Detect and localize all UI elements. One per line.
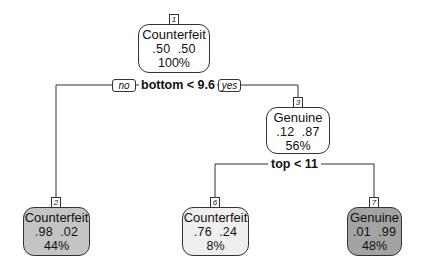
- node-probabilities: .12 .87: [267, 125, 329, 139]
- split-rule-node-3: top < 11: [268, 157, 321, 171]
- split-rule-root: bottom < 9.6: [139, 78, 217, 92]
- node-probabilities: .01 .99: [348, 225, 401, 239]
- tree-node-1: Counterfeit .50 .50 100%: [138, 24, 210, 73]
- tree-node-7: Genuine .01 .99 48%: [347, 207, 402, 256]
- edge-tag-yes: yes: [218, 79, 241, 92]
- node-percentage: 44%: [24, 239, 89, 253]
- node-class-label: Counterfeit: [24, 211, 89, 225]
- node-class-label: Counterfeit: [183, 211, 248, 225]
- tree-node-2: Counterfeit .98 .02 44%: [23, 207, 90, 256]
- node-class-label: Genuine: [348, 211, 401, 225]
- node-percentage: 48%: [348, 239, 401, 253]
- tree-node-3: Genuine .12 .87 56%: [266, 107, 330, 154]
- node-percentage: 100%: [139, 56, 209, 70]
- node-class-label: Genuine: [267, 111, 329, 125]
- node-percentage: 8%: [183, 239, 248, 253]
- node-probabilities: .50 .50: [139, 42, 209, 56]
- node-probabilities: .76 .24: [183, 225, 248, 239]
- node-probabilities: .98 .02: [24, 225, 89, 239]
- edge-tag-no: no: [112, 79, 136, 92]
- node-percentage: 56%: [267, 139, 329, 153]
- decision-tree-diagram: 1 Counterfeit .50 .50 100% no bottom < 9…: [0, 0, 424, 269]
- node-class-label: Counterfeit: [139, 28, 209, 42]
- tree-node-6: Counterfeit .76 .24 8%: [182, 207, 249, 256]
